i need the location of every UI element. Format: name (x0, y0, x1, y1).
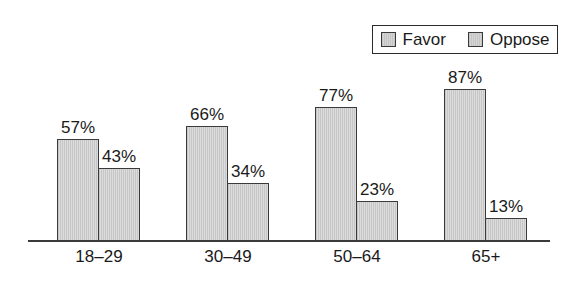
bar-oppose-30-49[interactable] (227, 183, 269, 241)
bar-chart: Favor Oppose 57% 43% 18–29 66% 34% 30–49… (0, 0, 580, 291)
bar-value-oppose-65-plus: 13% (476, 198, 536, 215)
bar-value-oppose-50-64: 23% (347, 181, 407, 198)
x-axis-label-50-64: 50–64 (316, 248, 398, 266)
bar-value-oppose-18-29: 43% (89, 148, 149, 165)
bar-value-favor-50-64: 77% (306, 87, 366, 104)
bar-favor-30-49[interactable] (186, 126, 228, 241)
bar-oppose-50-64[interactable] (356, 201, 398, 241)
bar-oppose-18-29[interactable] (98, 168, 140, 241)
bar-value-favor-18-29: 57% (48, 119, 108, 136)
plot-area: 57% 43% 18–29 66% 34% 30–49 77% 23% 50–6… (0, 0, 580, 291)
bar-value-favor-65-plus: 87% (435, 69, 495, 86)
bar-favor-50-64[interactable] (315, 107, 357, 241)
bar-oppose-65-plus[interactable] (485, 218, 527, 241)
bar-value-favor-30-49: 66% (177, 106, 237, 123)
x-axis-label-65-plus: 65+ (445, 248, 527, 266)
bar-value-oppose-30-49: 34% (218, 163, 278, 180)
x-axis-label-18-29: 18–29 (58, 248, 140, 266)
bar-favor-65-plus[interactable] (444, 89, 486, 241)
x-axis-label-30-49: 30–49 (187, 248, 269, 266)
